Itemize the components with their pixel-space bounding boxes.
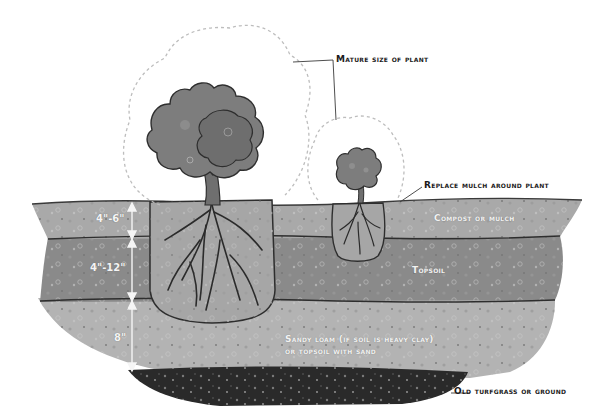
small-plant-icon [336,148,381,203]
label-old-turfgrass: Old turfgrass or ground [454,387,566,397]
label-sandy-loam-line2: or topsoil with sand [285,347,376,357]
small-root-ball [332,200,385,261]
large-root-ball [150,200,275,323]
dimension-sandy-loam-depth: 8" [114,332,126,343]
label-sandy-loam-line1: Sandy loam (if soil is heavy clay) [285,335,434,345]
soil-layer-diagram [0,0,607,420]
label-topsoil: Topsoil [412,266,445,276]
label-mature-size: Mature size of plant [336,55,428,65]
large-tree-icon [147,83,263,205]
label-replace-mulch: Replace mulch around plant [424,181,549,191]
label-compost: Compost or mulch [434,214,514,224]
dimension-compost-depth: 4"-6" [96,213,125,224]
dimension-topsoil-depth: 4"-12" [90,262,125,273]
turfgrass-layer [128,366,468,406]
